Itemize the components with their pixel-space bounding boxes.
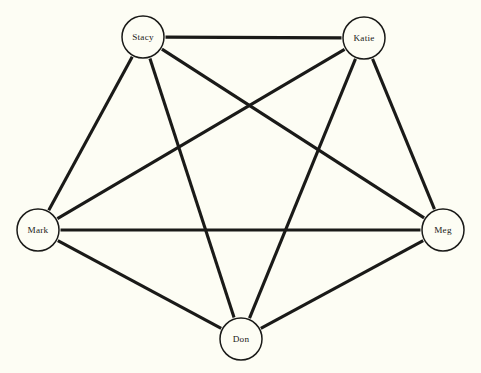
node-stacy[interactable]: Stacy xyxy=(122,16,164,58)
edge-mark-don xyxy=(58,241,221,329)
node-label-katie: Katie xyxy=(353,33,374,43)
edge-stacy-don xyxy=(150,58,234,317)
edge-meg-don xyxy=(261,241,423,329)
node-don[interactable]: Don xyxy=(220,318,262,360)
node-label-don: Don xyxy=(233,334,250,344)
node-katie[interactable]: Katie xyxy=(343,17,385,59)
node-mark[interactable]: Mark xyxy=(17,209,59,251)
edge-katie-meg xyxy=(373,59,435,209)
node-layer: StacyKatieMarkMegDon xyxy=(17,16,464,360)
node-label-mark: Mark xyxy=(28,225,49,235)
network-graph-canvas: StacyKatieMarkMegDon xyxy=(0,0,481,373)
edge-stacy-katie xyxy=(166,37,342,38)
node-label-meg: Meg xyxy=(434,225,452,235)
edge-stacy-mark xyxy=(49,57,133,210)
node-meg[interactable]: Meg xyxy=(422,209,464,251)
network-graph-svg: StacyKatieMarkMegDon xyxy=(0,0,481,373)
node-label-stacy: Stacy xyxy=(132,32,154,42)
edge-layer xyxy=(49,37,435,328)
